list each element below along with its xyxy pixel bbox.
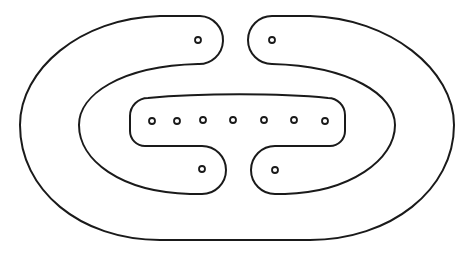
hole-center-bar-5 (261, 117, 267, 123)
outline-drawing (0, 0, 465, 257)
hole-center-bar-6 (291, 117, 297, 123)
hole-center-bar-3 (200, 117, 206, 123)
hole-center-bar-7 (322, 118, 328, 124)
hole-center-bar-2 (174, 118, 180, 124)
hole-bottom-left-arm (199, 166, 205, 172)
hole-center-bar-4 (230, 117, 236, 123)
hole-bottom-right-arm (272, 167, 278, 173)
hole-center-bar-1 (149, 118, 155, 124)
diagram-canvas (0, 0, 465, 257)
hole-top-left-arm (195, 37, 201, 43)
left-hook-outline (20, 16, 454, 240)
hole-top-right-arm (269, 37, 275, 43)
